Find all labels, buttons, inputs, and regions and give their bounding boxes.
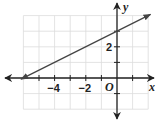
y-tick-label: 2 <box>106 41 112 53</box>
axes <box>5 3 154 119</box>
coordinate-graph: −4−22 x y O <box>0 0 159 123</box>
x-axis-label: x <box>148 80 155 94</box>
grid-lines <box>23 16 148 110</box>
x-tick-label: −2 <box>79 82 92 94</box>
origin-label: O <box>105 80 114 94</box>
tick-labels: −4−22 <box>47 41 112 94</box>
x-tick-label: −4 <box>47 82 60 94</box>
y-axis-label: y <box>121 0 129 14</box>
